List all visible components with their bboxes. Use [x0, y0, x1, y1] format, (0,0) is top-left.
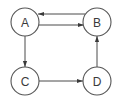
node-c-label: C [21, 75, 30, 89]
node-d: D [83, 67, 111, 95]
node-a-label: A [21, 16, 29, 30]
node-c: C [11, 67, 39, 95]
node-a: A [11, 8, 39, 36]
node-b-label: B [93, 16, 101, 30]
node-d-label: D [93, 75, 102, 89]
diagram-canvas: A B C D [0, 0, 126, 106]
directed-graph: A B C D [0, 0, 126, 106]
node-b: B [83, 8, 111, 36]
